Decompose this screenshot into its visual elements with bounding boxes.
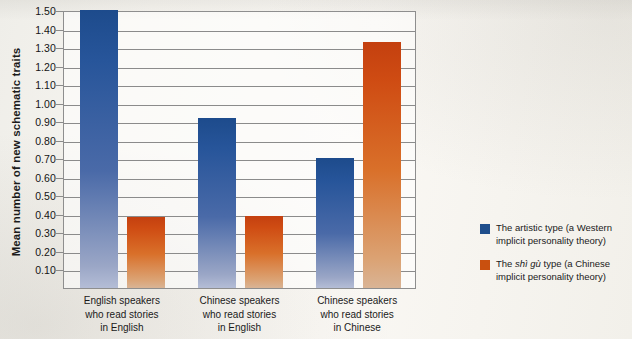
y-tick-label: 1.40 (35, 24, 56, 36)
y-tick-label: 0.70 (35, 153, 56, 165)
y-tick-label: 0.40 (35, 209, 56, 221)
y-tick-mark (54, 159, 63, 160)
y-tick-label: 0.90 (35, 116, 56, 128)
y-tick-label: 1.10 (35, 79, 56, 91)
bar-shigu-group-2 (245, 216, 283, 288)
y-tick-label: 1.00 (35, 98, 56, 110)
plot-area (63, 11, 416, 289)
x-axis-label-group-2: Chinese speakerswho read storiesin Engli… (181, 294, 299, 335)
bar-shigu-group-1 (127, 217, 165, 288)
y-tick-label: 0.10 (35, 264, 56, 276)
y-tick-mark (54, 48, 63, 49)
x-axis-label-group-1: English speakerswho read storiesin Engli… (63, 294, 181, 335)
x-axis-labels: English speakerswho read storiesin Engli… (63, 294, 416, 339)
bar-artistic-group-3 (316, 158, 354, 288)
chart-legend: The artistic type (a Western implicit pe… (480, 222, 628, 294)
y-tick-mark (54, 178, 63, 179)
y-tick-mark (54, 141, 63, 142)
bars-layer (64, 12, 415, 288)
y-tick-label: 0.60 (35, 172, 56, 184)
y-tick-mark (54, 104, 63, 105)
y-tick-mark (54, 122, 63, 123)
y-tick-label: 0.30 (35, 227, 56, 239)
y-tick-mark (54, 233, 63, 234)
legend-item-artistic-type: The artistic type (a Western implicit pe… (480, 222, 628, 247)
legend-swatch-orange (480, 260, 490, 270)
y-tick-mark (54, 270, 63, 271)
legend-item-shigu-type: The shì gù type (a Chinese implicit pers… (480, 258, 628, 283)
y-tick-label: 1.30 (35, 42, 56, 54)
y-tick-label: 0.20 (35, 246, 56, 258)
y-tick-label: 0.80 (35, 135, 56, 147)
y-tick-label: 1.20 (35, 61, 56, 73)
y-tick-label: 1.50 (35, 5, 56, 17)
y-tick-mark (54, 196, 63, 197)
y-tick-mark (54, 252, 63, 253)
y-axis-ticks: 1.501.401.301.201.101.000.900.800.700.60… (0, 11, 63, 289)
legend-swatch-blue (480, 224, 490, 234)
y-tick-mark (54, 215, 63, 216)
y-tick-mark (54, 85, 63, 86)
y-tick-label: 0.50 (35, 190, 56, 202)
y-tick-mark (54, 30, 63, 31)
y-tick-mark (54, 67, 63, 68)
legend-label-shigu-type: The shì gù type (a Chinese implicit pers… (496, 258, 628, 283)
bar-shigu-group-3 (363, 42, 401, 288)
legend-label-artistic-type: The artistic type (a Western implicit pe… (496, 222, 628, 247)
x-axis-label-group-3: Chinese speakerswho read storiesin Chine… (298, 294, 416, 335)
bar-chart-figure: Mean number of new schematic traits 1.50… (0, 0, 632, 339)
y-tick-mark (54, 11, 63, 12)
bar-artistic-group-2 (198, 118, 236, 289)
bar-artistic-group-1 (80, 10, 118, 288)
